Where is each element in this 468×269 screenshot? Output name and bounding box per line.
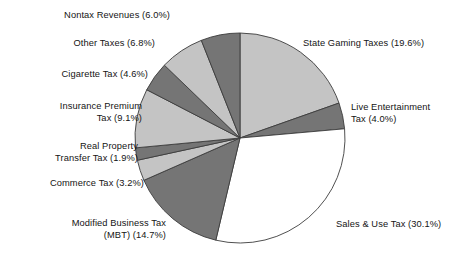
slice-label-real-property-transfer-tax: Real Property Transfer Tax (1.9%) <box>55 140 138 165</box>
slice-label-modified-business-tax: Modified Business Tax (MBT) (14.7%) <box>72 217 166 242</box>
slice-label-other-taxes: Other Taxes (6.8%) <box>73 37 155 49</box>
slice-label-sales-use-tax: Sales & Use Tax (30.1%) <box>336 218 441 230</box>
slice-label-nontax-revenues: Nontax Revenues (6.0%) <box>64 9 170 21</box>
slice-label-commerce-tax: Commerce Tax (3.2%) <box>50 177 144 189</box>
slice-label-state-gaming-taxes: State Gaming Taxes (19.6%) <box>303 37 424 49</box>
slice-label-cigarette-tax: Cigarette Tax (4.6%) <box>62 68 148 80</box>
slice-label-live-entertainment-tax: Live Entertainment Tax (4.0%) <box>351 101 430 126</box>
slice-label-insurance-premium-tax: Insurance Premium Tax (9.1%) <box>60 100 142 125</box>
pie-chart-figure: Nontax Revenues (6.0%) Other Taxes (6.8%… <box>0 0 468 269</box>
